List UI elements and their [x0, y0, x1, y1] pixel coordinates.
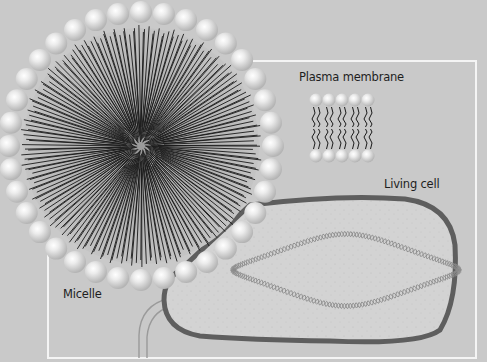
label-living-cell: Living cell	[384, 177, 439, 191]
label-micelle: Micelle	[63, 287, 102, 301]
figure: Plasma membrane Living cell Micelle	[0, 0, 487, 362]
label-plasma-membrane: Plasma membrane	[299, 70, 404, 84]
bilayer-diagram	[310, 94, 375, 163]
